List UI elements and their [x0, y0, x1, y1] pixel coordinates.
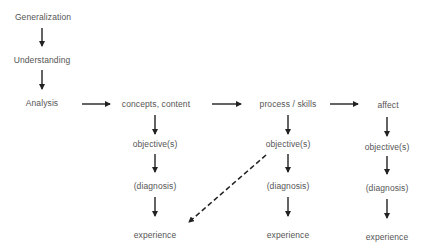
- node-concepts-experience: experience: [134, 230, 177, 240]
- node-affect: affect: [377, 100, 398, 110]
- node-process-experience: experience: [267, 230, 310, 240]
- node-understanding: Understanding: [14, 55, 71, 65]
- node-process-objective: objective(s): [266, 139, 311, 149]
- node-concepts-content: concepts, content: [122, 99, 190, 109]
- node-affect-diagnosis: (diagnosis): [366, 183, 409, 193]
- node-analysis: Analysis: [26, 98, 58, 108]
- node-process-skills: process / skills: [260, 99, 317, 109]
- node-generalization: Generalization: [15, 12, 71, 22]
- node-affect-experience: experience: [366, 232, 409, 242]
- node-concepts-diagnosis: (diagnosis): [134, 181, 177, 191]
- node-affect-objective: objective(s): [365, 142, 410, 152]
- diagram-connectors: [0, 0, 425, 252]
- dashed-arrow-process-objective-to-concepts-experience: [189, 155, 266, 222]
- node-process-diagnosis: (diagnosis): [267, 181, 310, 191]
- node-concepts-objective: objective(s): [133, 139, 178, 149]
